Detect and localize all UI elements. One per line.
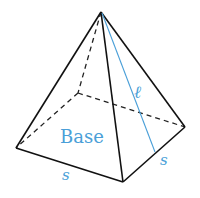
pyramid-diagram: ℓ Base s s: [0, 0, 200, 198]
base-label: Base: [60, 126, 104, 147]
side-front-label: s: [62, 166, 70, 184]
side-right-label: s: [160, 151, 168, 169]
slant-height-label: ℓ: [134, 82, 141, 102]
